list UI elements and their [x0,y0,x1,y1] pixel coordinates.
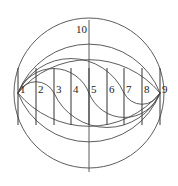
tick-label-6: 6 [109,84,115,95]
tick-label-7: 7 [126,84,132,95]
tick-label-3: 3 [56,84,62,95]
figure-root: 1 2 3 4 5 6 7 8 9 10 [0,0,178,186]
tick-label-2: 2 [38,84,44,95]
tick-label-4: 4 [73,84,79,95]
tick-label-8: 8 [144,84,150,95]
tick-label-1: 1 [20,84,26,95]
geometry-diagram [0,0,178,186]
axis-label-10: 10 [76,24,87,35]
tick-label-5: 5 [91,84,97,95]
tick-label-9: 9 [162,84,168,95]
